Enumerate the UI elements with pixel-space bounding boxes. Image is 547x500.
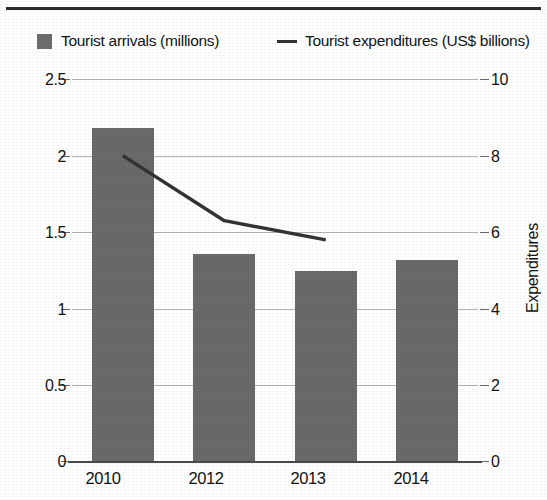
figure-top-rule [6,7,541,10]
legend-item-tourist-arrivals: Tourist arrivals (millions) [37,28,219,54]
legend-label-tourist-arrivals: Tourist arrivals (millions) [61,33,219,49]
tick-right-10 [480,79,489,80]
bar-2012 [193,254,255,462]
ytick-label-left-0: 0 [58,454,67,470]
xtick-label-2010: 2010 [48,470,158,487]
ytick-label-right-0: 0 [491,454,500,470]
tick-right-8 [480,156,489,157]
plot-area [72,79,478,462]
ytick-label-left-2-5: 2.5 [45,72,66,88]
filled-square-marker-icon [37,34,52,49]
ytick-label-right-2: 2 [491,378,500,394]
xtick-label-2012: 2012 [151,470,261,487]
tick-right-4 [480,309,489,310]
line-dash-marker-icon [277,40,297,43]
ytick-label-left-1-5: 1.5 [45,225,66,241]
y-axis-title-expenditures: Expenditures [524,198,542,338]
tourism-chart-figure: Tourist arrivals (millions) Tourist expe… [0,0,547,500]
ytick-label-right-6: 6 [491,225,500,241]
ytick-label-left-2: 2 [58,149,67,165]
x-axis-baseline [68,461,482,463]
xtick-label-2013: 2013 [253,470,363,487]
ytick-label-right-4: 4 [491,302,500,318]
bar-2010 [92,128,154,462]
ytick-label-right-10: 10 [491,72,508,88]
gridline-2-5 [72,79,478,80]
chart-legend: Tourist arrivals (millions) Tourist expe… [0,28,547,54]
legend-label-tourist-expenditures: Tourist expenditures (US$ billions) [305,33,530,49]
ytick-label-right-8: 8 [491,149,500,165]
bar-2013 [295,271,357,463]
tick-right-2 [480,385,489,386]
bar-2014 [396,260,458,462]
legend-item-tourist-expenditures: Tourist expenditures (US$ billions) [277,28,530,54]
tick-right-6 [480,232,489,233]
ytick-label-left-0-5: 0.5 [45,378,66,394]
ytick-label-left-1: 1 [58,302,67,318]
xtick-label-2014: 2014 [356,470,466,487]
